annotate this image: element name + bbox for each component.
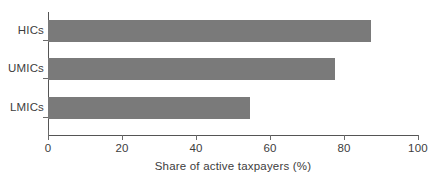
x-axis-tick-100 [418, 135, 419, 140]
x-axis-tick-label-0: 0 [45, 142, 52, 154]
bar-umics[interactable] [48, 58, 335, 80]
bar-fill-hics [48, 20, 371, 42]
bar-chart: HICs UMICs LMICs 020406080100 Share of a… [0, 0, 435, 180]
y-axis-tick-label-lmics: LMICs [0, 101, 44, 113]
x-axis-tick-label-80: 80 [337, 142, 350, 154]
x-axis-tick-0 [48, 135, 49, 140]
x-axis-title: Share of active taxpayers (%) [48, 160, 418, 172]
x-axis-tick-60 [270, 135, 271, 140]
x-axis-origin-tick [48, 130, 49, 135]
x-axis-tick-label-60: 60 [263, 142, 276, 154]
x-axis-tick-label-100: 100 [408, 142, 428, 154]
bar-hics[interactable] [48, 20, 371, 42]
x-axis-tick-label-40: 40 [189, 142, 202, 154]
bar-lmics[interactable] [48, 97, 250, 119]
bar-fill-lmics [48, 97, 250, 119]
x-axis-tick-label-20: 20 [115, 142, 128, 154]
y-axis-tick-labels: HICs UMICs LMICs [0, 0, 44, 180]
y-axis-tick-label-hics: HICs [0, 24, 44, 36]
x-axis-tick-40 [196, 135, 197, 140]
x-axis-tick-80 [344, 135, 345, 140]
x-axis-tick-20 [122, 135, 123, 140]
y-axis-tick-label-umics: UMICs [0, 62, 44, 74]
bar-fill-umics [48, 58, 335, 80]
plot-area [48, 12, 418, 136]
